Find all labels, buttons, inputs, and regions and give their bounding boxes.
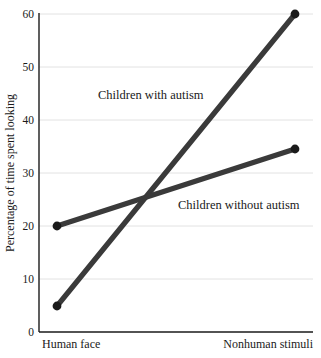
y-tick-label-60: 60	[23, 8, 35, 20]
y-tick-labels: 60 50 40 30 20 10 0	[23, 8, 35, 338]
x-category-label-nonhuman-stimuli: Nonhuman stimuli	[223, 337, 313, 351]
y-tick-label-10: 10	[23, 273, 35, 285]
y-tick-label-40: 40	[23, 114, 35, 126]
chart-canvas: 60 50 40 30 20 10 0 Percentage of time s…	[0, 0, 321, 358]
y-axis-title: Percentage of time spent looking	[3, 94, 17, 252]
line-chart: 60 50 40 30 20 10 0 Percentage of time s…	[0, 0, 321, 358]
data-point-with-autism-human-face	[53, 302, 62, 311]
y-tick-label-0: 0	[28, 326, 34, 338]
y-tick-label-30: 30	[23, 167, 35, 179]
data-point-with-autism-nonhuman-stimuli	[291, 10, 300, 19]
y-tick-label-20: 20	[23, 220, 35, 232]
y-tick-label-50: 50	[23, 61, 35, 73]
x-category-label-human-face: Human face	[42, 337, 100, 351]
gridlines	[39, 14, 313, 279]
data-point-without-autism-nonhuman-stimuli	[291, 145, 300, 154]
data-point-without-autism-human-face	[53, 222, 62, 231]
series-annotation-without-autism: Children without autism	[178, 198, 300, 212]
series-annotation-with-autism: Children with autism	[98, 88, 204, 102]
